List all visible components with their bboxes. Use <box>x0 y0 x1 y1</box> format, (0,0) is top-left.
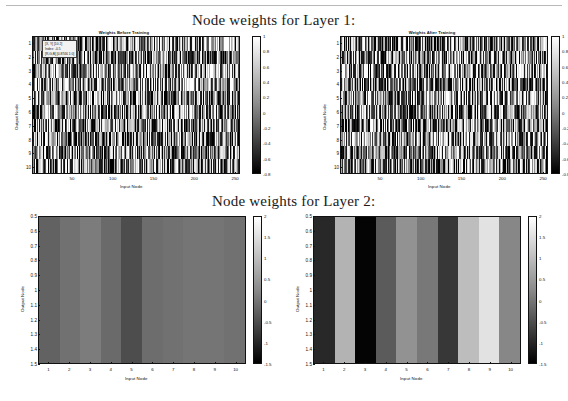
data-cursor-tooltip[interactable]: [X, Y] [10 2] Index: -0.5 [R,G,B] [0.874… <box>42 40 77 58</box>
tick-label: 0.5 <box>21 214 37 219</box>
tick-mark <box>427 362 428 364</box>
tick-mark <box>173 362 174 364</box>
tick-label: 6 <box>426 367 428 372</box>
tick-label: -0.8 <box>562 172 568 177</box>
tick-label: 2 <box>264 214 266 219</box>
tick-mark <box>132 362 133 364</box>
tick-mark <box>511 362 512 364</box>
heatmap-cell <box>438 217 459 363</box>
colorbar-before-training[interactable] <box>252 36 261 174</box>
tick-mark <box>32 167 34 168</box>
tick-mark <box>69 362 70 364</box>
heatmap-cell <box>183 217 204 363</box>
tick-label: 3 <box>89 367 91 372</box>
tick-label: 0.4 <box>562 80 568 85</box>
tick-mark <box>340 126 342 127</box>
heatmap-cell <box>546 146 547 160</box>
tick-label: 7 <box>172 367 174 372</box>
tick-label: -1.5 <box>539 362 547 367</box>
heatmap-cell <box>238 105 239 119</box>
tick-mark <box>340 57 342 58</box>
heatmap-cell <box>60 217 81 363</box>
tick-mark <box>194 172 195 174</box>
tick-label: 1.5 <box>539 235 545 240</box>
heatmap-cell <box>335 217 356 363</box>
colorbar-layer2-after[interactable] <box>528 216 537 364</box>
tick-label: 9 <box>323 151 339 156</box>
tick-label: 2 <box>68 367 70 372</box>
tick-mark <box>32 84 34 85</box>
tick-label: 10 <box>233 367 238 372</box>
tick-label: 0.7 <box>296 243 312 248</box>
heatmap-cell <box>142 217 163 363</box>
tick-mark <box>313 216 315 217</box>
tick-label: 250 <box>539 176 546 181</box>
tick-label: -1.5 <box>264 362 272 367</box>
tick-mark <box>313 275 315 276</box>
tick-label: 4 <box>110 367 112 372</box>
tick-mark <box>152 362 153 364</box>
tick-label: 9 <box>489 367 491 372</box>
tick-label: 1 <box>539 256 541 261</box>
tick-mark <box>313 231 315 232</box>
tick-label: 0.8 <box>296 258 312 263</box>
tick-mark <box>32 126 34 127</box>
tick-mark <box>469 362 470 364</box>
tick-mark <box>386 362 387 364</box>
tick-mark <box>340 71 342 72</box>
tick-mark <box>313 364 315 365</box>
tick-mark <box>38 290 40 291</box>
colorbar-layer2-before[interactable] <box>253 216 262 364</box>
heatmap-cell <box>121 217 142 363</box>
tick-label: 0.7 <box>21 243 37 248</box>
tick-label: 0.5 <box>264 277 270 282</box>
tick-label: 0.9 <box>296 273 312 278</box>
tick-mark <box>32 71 34 72</box>
tick-label: 0.6 <box>296 228 312 233</box>
tick-mark <box>113 172 114 174</box>
tick-mark <box>313 334 315 335</box>
heatmap-cell <box>238 37 239 51</box>
heatmap-cell <box>314 217 335 363</box>
tick-label: 1.5 <box>296 362 312 367</box>
heatmap-axes-after-training[interactable] <box>340 36 548 174</box>
heatmap-cell <box>499 217 520 363</box>
tick-label: -0.6 <box>562 156 568 161</box>
tick-label: 6 <box>15 109 31 114</box>
tick-label: 0.5 <box>539 277 545 282</box>
tick-label: 8 <box>468 367 470 372</box>
tick-label: -1 <box>264 340 268 345</box>
colorbar-after-training[interactable] <box>551 36 560 174</box>
tick-mark <box>194 362 195 364</box>
tick-label: 0 <box>539 298 541 303</box>
tick-mark <box>154 172 155 174</box>
figure-title-layer2: Node weights for Layer 2: <box>212 193 375 210</box>
tick-mark <box>340 84 342 85</box>
tick-mark <box>340 153 342 154</box>
tick-label: 8 <box>193 367 195 372</box>
tick-label: 6 <box>323 109 339 114</box>
tick-mark <box>340 112 342 113</box>
heatmap-axes-layer2-before[interactable] <box>38 216 246 364</box>
heatmap-axes-layer2-after[interactable] <box>313 216 521 364</box>
tick-mark <box>340 98 342 99</box>
tick-label: -0.5 <box>264 319 272 324</box>
tick-mark <box>235 172 236 174</box>
heatmap-cell <box>546 105 547 119</box>
tick-mark <box>448 362 449 364</box>
tick-label: 1 <box>47 367 49 372</box>
tick-label: 1.3 <box>21 332 37 337</box>
tick-label: 0.6 <box>562 64 568 69</box>
tick-label: 0.6 <box>21 228 37 233</box>
tick-mark <box>407 362 408 364</box>
heatmap-cell <box>355 217 376 363</box>
tick-mark <box>490 362 491 364</box>
heatmap-cell <box>396 217 417 363</box>
heatmap-cell <box>163 217 184 363</box>
subplot-title: Weights Before Training <box>64 30 184 35</box>
tick-label: 4 <box>385 367 387 372</box>
tick-mark <box>340 43 342 44</box>
x-axis-label: Input Node <box>120 184 142 189</box>
tick-mark <box>38 349 40 350</box>
heatmap-cell <box>417 217 438 363</box>
